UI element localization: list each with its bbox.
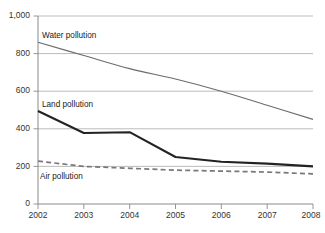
series-label-water-pollution: Water pollution — [42, 31, 97, 40]
chart-figure: 1,000 800 600 400 200 0 2002 2003 2004 2… — [0, 0, 325, 233]
y-axis-labels: 1,000 800 600 400 200 0 — [9, 10, 31, 208]
x-tick-label-2006: 2006 — [212, 210, 231, 220]
x-tick-label-2003: 2003 — [74, 210, 93, 220]
series-line-land-pollution — [38, 111, 313, 166]
line-chart: 1,000 800 600 400 200 0 2002 2003 2004 2… — [0, 0, 325, 233]
y-tick-marks — [34, 16, 39, 204]
y-tick-label-0: 0 — [25, 198, 30, 208]
series-label-land-pollution: Land pollution — [42, 100, 93, 109]
y-tick-label-600: 600 — [16, 85, 30, 95]
x-tick-label-2004: 2004 — [120, 210, 139, 220]
y-tick-label-800: 800 — [16, 48, 30, 58]
y-tick-label-1000: 1,000 — [9, 10, 31, 20]
x-tick-label-2005: 2005 — [166, 210, 185, 220]
x-tick-marks — [38, 204, 313, 209]
y-tick-label-400: 400 — [16, 123, 30, 133]
series-label-air-pollution: Air pollution — [40, 172, 83, 181]
x-tick-label-2008: 2008 — [302, 210, 321, 220]
y-tick-label-200: 200 — [16, 161, 30, 171]
x-axis-labels: 2002 2003 2004 2005 2006 2007 2008 — [29, 210, 321, 220]
x-tick-label-2007: 2007 — [258, 210, 277, 220]
x-tick-label-2002: 2002 — [29, 210, 48, 220]
